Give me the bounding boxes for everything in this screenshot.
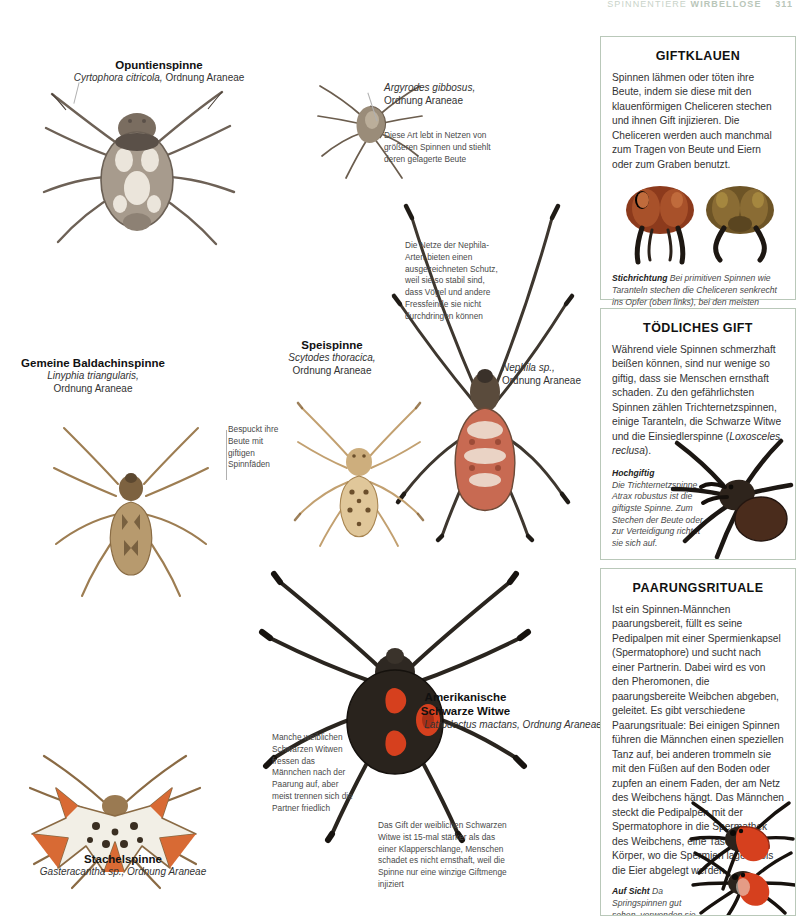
encyclopedia-page: SPINNENTIERE WIRBELLOSE 311 xyxy=(0,0,803,924)
label-scientific-name: Cyrtophora citricola, Ordnung Araneae xyxy=(48,72,270,85)
label-stachelspinne: Stachelspinne Gasteracantha sp., Ordnung… xyxy=(8,852,238,879)
label-common-name: Stachelspinne xyxy=(8,852,238,866)
chelicerae-orthognath xyxy=(626,186,694,262)
running-head-topic: WIRBELLOSE xyxy=(691,0,762,9)
note-nephila-net: Die Netze der Nephila-Arten bieten einen… xyxy=(405,240,503,322)
springspinne-illustration xyxy=(677,797,795,916)
panel-title: TÖDLICHES GIFT xyxy=(612,321,784,335)
running-head: SPINNENTIERE WIRBELLOSE 311 xyxy=(607,0,793,9)
label-speispinne: Speispinne Scytodes thoracica, Ordnung A… xyxy=(252,338,412,377)
illustration-speispinne xyxy=(290,400,430,550)
panel-title: PAARUNGSRITUALE xyxy=(612,581,784,595)
label-common-name: Gemeine Baldachinspinne xyxy=(18,356,168,370)
panel-paarungsrituale: PAARUNGSRITUALE Ist ein Spinnen-Männchen… xyxy=(600,568,796,916)
atrax-robustus-illustration xyxy=(663,439,793,559)
illustration-baldachinspinne xyxy=(48,418,213,603)
label-baldachinspinne: Gemeine Baldachinspinne Linyphia triangu… xyxy=(18,356,168,395)
label-scientific-name: Scytodes thoracica, Ordnung Araneae xyxy=(252,352,412,377)
panel-body: Spinnen lähmen oder töten ihre Beute, in… xyxy=(612,71,784,172)
panel-giftklauen: GIFTKLAUEN Spinnen lähmen oder töten ihr… xyxy=(600,36,796,300)
label-scientific-name: Argyrodes gibbosus, Ordnung Araneae xyxy=(384,82,534,107)
note-witwe-gift: Das Gift der weiblichen Schwarzen Witwe … xyxy=(378,820,513,891)
label-scientific-name: Gasteracantha sp., Ordnung Araneae xyxy=(8,866,238,879)
note-speispinne: Bespuckt ihre Beute mit giftigen Spinnfä… xyxy=(228,424,290,471)
label-common-name: Speispinne xyxy=(252,338,412,352)
chelicerae-labidognath xyxy=(706,186,774,260)
panel-toedliches-gift: TÖDLICHES GIFT Während viele Spinnen sch… xyxy=(600,308,796,560)
note-argyrodes: Diese Art lebt in Netzen von größeren Sp… xyxy=(384,130,506,165)
chelicerae-illustration xyxy=(612,180,784,266)
page-number: 311 xyxy=(775,0,793,9)
label-argyrodes: Argyrodes gibbosus, Ordnung Araneae xyxy=(384,82,534,107)
label-common-name: Opuntienspinne xyxy=(48,58,270,72)
label-scientific-name: Linyphia triangularis, Ordnung Araneae xyxy=(18,370,168,395)
note-witwe-kannibalismus: Manche weiblichen Schwarzen Witwen fress… xyxy=(272,732,354,814)
running-head-section: SPINNENTIERE xyxy=(607,0,687,9)
label-opuntienspinne: Opuntienspinne Cyrtophora citricola, Ord… xyxy=(48,58,270,85)
illustration-opuntienspinne xyxy=(40,72,240,267)
label-common-name: Amerikanische Schwarze Witwe xyxy=(398,690,533,719)
label-scientific-name: Latrodectus mactans, Ordnung Araneae xyxy=(398,719,628,732)
panel-title: GIFTKLAUEN xyxy=(612,49,784,63)
leader-line-speispinne xyxy=(226,430,227,480)
label-schwarze-witwe: Amerikanische Schwarze Witwe Latrodectus… xyxy=(398,690,628,731)
